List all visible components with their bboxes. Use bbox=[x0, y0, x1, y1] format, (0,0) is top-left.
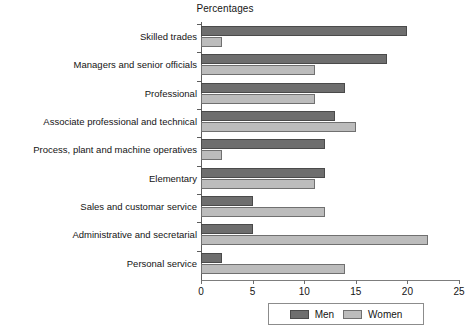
bar-men bbox=[201, 54, 387, 64]
category-label: Associate professional and technical bbox=[0, 117, 197, 127]
legend-item-women: Women bbox=[343, 309, 402, 320]
legend-label-men: Men bbox=[315, 309, 334, 320]
legend-swatch-women-icon bbox=[343, 310, 362, 319]
category-label: Professional bbox=[0, 89, 197, 99]
bar-women bbox=[201, 235, 428, 245]
category-label: Personal service bbox=[0, 259, 197, 269]
bar-men bbox=[201, 253, 222, 263]
chart-title: Percentages bbox=[155, 3, 295, 14]
bar-men bbox=[201, 83, 345, 93]
x-axis-tick-label: 15 bbox=[341, 286, 371, 297]
percentages-bar-chart: Percentages Skilled tradesManagers and s… bbox=[0, 0, 473, 330]
x-axis-tick-label: 5 bbox=[238, 286, 268, 297]
x-axis-tick-label: 10 bbox=[289, 286, 319, 297]
category-row: Professional bbox=[201, 81, 459, 109]
category-row: Associate professional and technical bbox=[201, 109, 459, 137]
category-row: Skilled trades bbox=[201, 24, 459, 52]
category-row: Process, plant and machine operatives bbox=[201, 137, 459, 165]
category-label: Sales and customar service bbox=[0, 202, 197, 212]
category-label: Skilled trades bbox=[0, 32, 197, 42]
x-axis-tick bbox=[304, 280, 305, 284]
bar-women bbox=[201, 207, 325, 217]
x-axis-tick-label: 0 bbox=[186, 286, 216, 297]
bar-men bbox=[201, 224, 253, 234]
x-axis-tick bbox=[201, 280, 202, 284]
bar-men bbox=[201, 26, 407, 36]
bar-women bbox=[201, 94, 315, 104]
bar-women bbox=[201, 37, 222, 47]
legend-label-women: Women bbox=[368, 309, 402, 320]
category-row: Managers and senior officials bbox=[201, 52, 459, 80]
bar-men bbox=[201, 168, 325, 178]
bar-women bbox=[201, 65, 315, 75]
plot-area: Skilled tradesManagers and senior offici… bbox=[201, 24, 459, 279]
bar-women bbox=[201, 150, 222, 160]
y-axis-tick bbox=[197, 166, 201, 167]
category-label: Elementary bbox=[0, 174, 197, 184]
category-label: Process, plant and machine operatives bbox=[0, 145, 197, 155]
chart-legend: Men Women bbox=[268, 303, 424, 325]
y-axis-tick bbox=[197, 251, 201, 252]
category-row: Administrative and secretarial bbox=[201, 222, 459, 250]
x-axis-tick-label: 25 bbox=[444, 286, 473, 297]
bar-women bbox=[201, 264, 345, 274]
y-axis-tick bbox=[197, 109, 201, 110]
legend-swatch-men-icon bbox=[290, 310, 309, 319]
category-row: Sales and customar service bbox=[201, 194, 459, 222]
y-axis-tick bbox=[197, 24, 201, 25]
category-label: Managers and senior officials bbox=[0, 60, 197, 70]
bar-men bbox=[201, 196, 253, 206]
bar-men bbox=[201, 111, 335, 121]
x-axis-tick bbox=[253, 280, 254, 284]
bar-men bbox=[201, 139, 325, 149]
category-row: Personal service bbox=[201, 251, 459, 279]
x-axis-line bbox=[201, 280, 460, 281]
y-axis-tick bbox=[197, 222, 201, 223]
category-row: Elementary bbox=[201, 166, 459, 194]
x-axis-tick bbox=[459, 280, 460, 284]
category-label: Administrative and secretarial bbox=[0, 230, 197, 240]
y-axis-tick bbox=[197, 137, 201, 138]
legend-item-men: Men bbox=[290, 309, 334, 320]
y-axis-tick bbox=[197, 52, 201, 53]
x-axis-tick bbox=[356, 280, 357, 284]
x-axis-tick bbox=[407, 280, 408, 284]
y-axis-tick bbox=[197, 194, 201, 195]
bar-women bbox=[201, 179, 315, 189]
bar-women bbox=[201, 122, 356, 132]
x-axis-tick-label: 20 bbox=[392, 286, 422, 297]
y-axis-tick bbox=[197, 81, 201, 82]
